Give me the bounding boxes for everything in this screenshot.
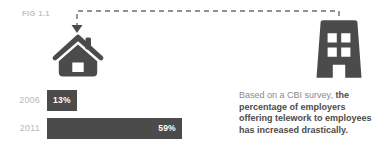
bar-track: 59% [47,118,223,139]
office-building-icon [310,18,368,80]
bar-category-label: 2006 [0,90,40,111]
bar-track: 13% [47,90,223,111]
caption-text: Based on a CBI survey, the percentage of… [239,90,381,136]
bar-fill: 13% [47,90,77,111]
bar-category-label: 2011 [0,118,40,139]
bar-row: 2011 59% [0,118,230,139]
caption-lead: Based on a CBI survey, [239,90,335,100]
bar-row: 2006 13% [0,90,230,111]
telework-infographic: FIG 1.1 2006 13% [0,0,383,162]
bar-value-label: 13% [53,90,71,111]
telework-bar-chart: 2006 13% 2011 59% [0,86,230,144]
bar-fill: 59% [47,118,182,139]
house-icon [50,32,106,80]
bar-value-label: 59% [158,118,176,139]
